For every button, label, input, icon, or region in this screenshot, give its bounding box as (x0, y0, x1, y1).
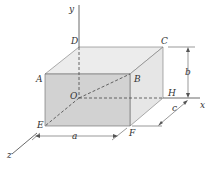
arrow-a-left (35, 134, 40, 138)
z-axis (12, 133, 37, 154)
label-x-axis: x (200, 100, 205, 110)
dim-a-ext-right (112, 128, 127, 140)
label-point-B: B (133, 74, 141, 84)
arrow-b-bottom (186, 93, 190, 98)
label-point-O: O (70, 91, 78, 101)
label-point-A: A (35, 74, 43, 84)
label-point-H: H (167, 88, 176, 98)
label-dim-a: a (72, 131, 77, 141)
front-face (45, 74, 130, 126)
box-diagram: y x z D C A B O H E F a b c (0, 0, 211, 173)
label-y-axis: y (68, 4, 75, 14)
label-point-C: C (161, 36, 168, 46)
label-z-axis: z (6, 150, 12, 160)
arrow-b-top (186, 47, 190, 52)
label-point-E: E (36, 120, 44, 130)
label-point-D: D (70, 36, 78, 46)
label-dim-b: b (185, 67, 191, 77)
label-point-F: F (128, 128, 136, 138)
label-dim-c: c (172, 103, 177, 113)
